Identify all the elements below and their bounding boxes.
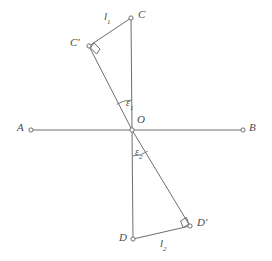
point-marker-dprime (188, 224, 192, 228)
point-marker-o (130, 128, 134, 132)
point-marker-b (241, 128, 245, 132)
angle-label-epsilon1-subscript: 1 (130, 104, 134, 112)
line-segment-co (131, 18, 132, 130)
point-marker-d (131, 237, 135, 241)
segment-label-l2-subscript: 2 (163, 245, 167, 253)
point-label-c: C (138, 9, 145, 20)
segment-label-l1-subscript: 1 (107, 18, 111, 26)
figure-canvas (0, 0, 272, 261)
angle-label-epsilon2-subscript: 2 (139, 153, 143, 161)
point-label-cprime: C′ (70, 37, 80, 48)
segment-label-l1: l1 (104, 11, 111, 25)
line-segment-cprime-o (89, 46, 132, 130)
point-label-d: D (119, 232, 127, 243)
geometry-figure: A B C C′ D D′ O l1 l2 ε1 ε2 (0, 0, 272, 261)
angle-label-epsilon1: ε1 (126, 98, 133, 111)
point-label-o: O (137, 114, 145, 125)
point-marker-a (29, 128, 33, 132)
angle-label-epsilon2: ε2 (135, 147, 142, 160)
segment-label-l2: l2 (160, 238, 167, 252)
point-marker-cprime (87, 44, 91, 48)
point-marker-c (129, 16, 133, 20)
line-segment-o-dprime (132, 130, 190, 226)
line-segment-od (132, 130, 133, 239)
point-label-b: B (249, 122, 256, 133)
point-label-a: A (17, 122, 24, 133)
point-label-dprime: D′ (197, 217, 207, 228)
